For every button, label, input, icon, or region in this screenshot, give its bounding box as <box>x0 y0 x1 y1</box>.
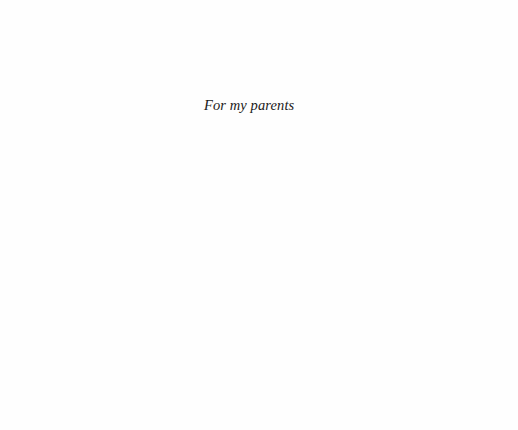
dedication-text: For my parents <box>204 97 294 114</box>
dedication-page: For my parents <box>0 0 518 430</box>
